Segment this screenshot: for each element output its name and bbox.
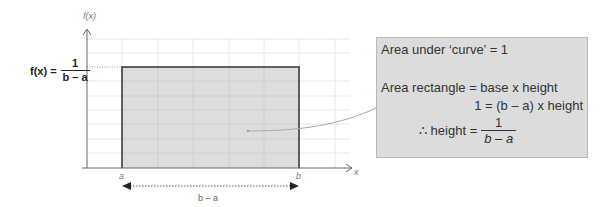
height-equation: f(x) = 1 b – a (30, 58, 90, 83)
lower-bound-label: a (119, 172, 124, 181)
callout-result-denominator: b – a (481, 130, 516, 145)
callout-result-prefix: ∴ height = (419, 124, 477, 137)
callout-result-fraction: 1 b – a (481, 116, 516, 145)
height-equation-lhs: f(x) = (30, 65, 57, 77)
height-denominator: b – a (61, 70, 90, 83)
right-arrowhead-icon (290, 182, 299, 190)
callout-result-numerator: 1 (493, 116, 504, 130)
width-label: b – a (198, 194, 218, 203)
height-fraction: 1 b – a (61, 58, 90, 83)
callout-area-statement: Area under ‘curve’ = 1 (381, 43, 508, 56)
uniform-distribution-diagram: f(x) x a b b – a f(x) = 1 b – a Area und… (0, 0, 616, 207)
callout-area-formula: Area rectangle = base x height (381, 81, 558, 94)
left-arrowhead-icon (122, 182, 131, 190)
callout-result: ∴ height = 1 b – a (419, 116, 516, 145)
height-numerator: 1 (70, 58, 80, 70)
callout-box: Area under ‘curve’ = 1 Area rectangle = … (376, 37, 588, 158)
upper-bound-label: b (296, 172, 301, 181)
y-axis-label: f(x) (83, 12, 96, 21)
width-dimension-arrow (122, 182, 299, 190)
callout-substitution: 1 = (b – a) x height (474, 99, 583, 112)
x-axis-label: x (354, 168, 359, 177)
